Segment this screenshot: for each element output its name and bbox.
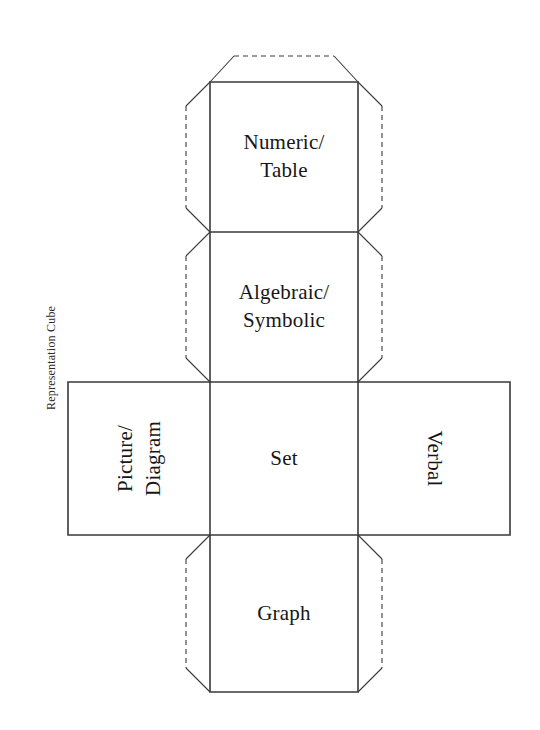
flap-numeric-left bbox=[186, 82, 210, 232]
face-label-verbal: Verbal bbox=[358, 383, 511, 535]
flap-numeric-right bbox=[358, 82, 382, 232]
face-label-graph: Graph bbox=[210, 535, 358, 692]
flap-algebraic-left bbox=[186, 232, 210, 382]
face-label-set: Set bbox=[210, 382, 358, 535]
face-label-picture-diagram: Picture/ Diagram bbox=[63, 388, 216, 530]
face-label-numeric-table: Numeric/ Table bbox=[210, 82, 358, 232]
face-label-algebraic-symbolic: Algebraic/ Symbolic bbox=[210, 232, 358, 382]
flap-graph-right bbox=[358, 535, 382, 692]
representation-cube-figure: Numeric/ Table Algebraic/ Symbolic Pictu… bbox=[0, 0, 540, 730]
flap-graph-left bbox=[186, 535, 210, 692]
flap-top bbox=[210, 56, 358, 82]
flap-algebraic-right bbox=[358, 232, 382, 382]
figure-caption: Representation Cube bbox=[44, 306, 59, 410]
